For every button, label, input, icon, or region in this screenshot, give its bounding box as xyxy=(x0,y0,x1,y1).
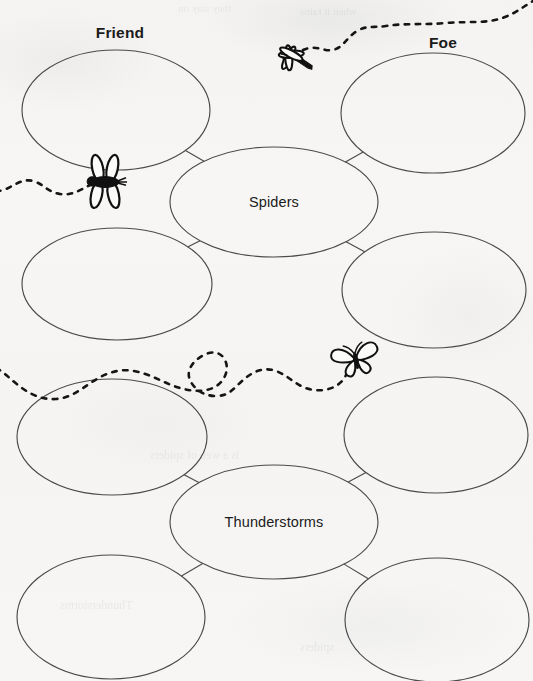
column-header-foe: Foe xyxy=(429,34,457,52)
column-header-friend: Friend xyxy=(96,24,145,42)
text-labels: SpidersThunderstormsFriendFoe xyxy=(0,0,533,681)
worksheet-page: they stay onwhen it rainsis a web of spi… xyxy=(0,0,533,681)
center-topic-label: Spiders xyxy=(249,194,299,210)
center-topic-label: Thunderstorms xyxy=(225,514,324,530)
